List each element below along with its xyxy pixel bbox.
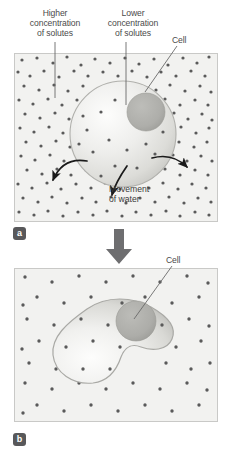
transition-arrow-a-to-b <box>104 229 134 265</box>
label-higher-concentration: Higher concentration of solutes <box>14 8 96 39</box>
label-cell-panel-a: Cell <box>172 35 212 45</box>
panel-label-a: a <box>13 227 26 240</box>
label-cell-panel-b: Cell <box>166 255 210 265</box>
label-lower-concentration: Lower concentration of solutes <box>96 8 170 39</box>
cell-nucleus-panel-a <box>127 93 165 131</box>
panel-label-b: b <box>13 433 26 446</box>
cell-membrane-panel-b <box>53 299 173 383</box>
panel-b-illustration <box>15 269 215 419</box>
panel-b-diagram <box>14 268 218 422</box>
label-movement-of-water: Movement of water <box>109 184 175 205</box>
downward-arrow-glyph <box>106 229 132 264</box>
cell-nucleus-panel-b <box>116 301 156 341</box>
